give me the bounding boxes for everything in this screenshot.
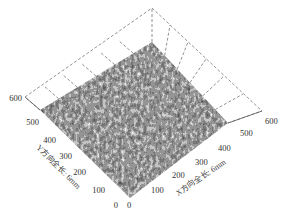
x-tick-400: 400: [218, 143, 231, 153]
y-tick-400: 400: [43, 135, 56, 145]
y-tick-600: 600: [9, 93, 22, 103]
x-tick-200: 200: [172, 170, 185, 180]
x-tick-500: 500: [240, 128, 253, 138]
y-tick-500: 500: [26, 117, 39, 127]
y-tick-0: 0: [114, 200, 118, 210]
x-tick-600: 600: [265, 116, 278, 126]
surface-plot-figure: 0 100 200 300 400 500 600 0 100 200 300 …: [0, 0, 284, 215]
surface-plot-svg: 0 100 200 300 400 500 600 0 100 200 300 …: [0, 0, 284, 215]
x-tick-0: 0: [127, 200, 131, 210]
x-tick-100: 100: [151, 185, 164, 195]
y-tick-300: 300: [59, 151, 72, 161]
y-tick-200: 200: [73, 167, 86, 177]
x-tick-300: 300: [195, 157, 208, 167]
y-tick-100: 100: [92, 185, 105, 195]
